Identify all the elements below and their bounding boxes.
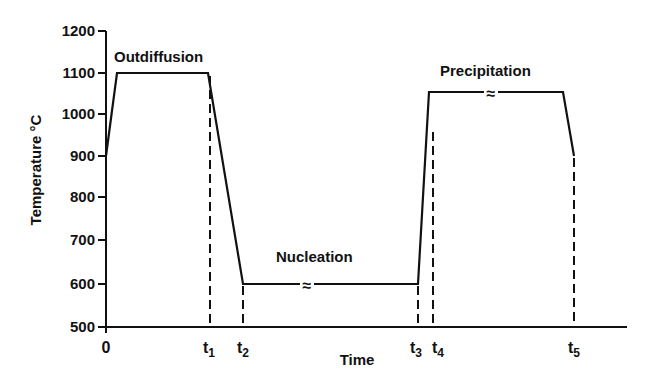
y-axis [98, 31, 106, 333]
label-precipitation: Precipitation [440, 62, 531, 79]
y-tick-1000: 1000 [62, 105, 95, 122]
y-axis-title: Temperature °C [27, 114, 44, 225]
y-tick-900: 900 [70, 147, 95, 164]
x-tick-t3: t3 [410, 339, 422, 360]
y-tick-800: 800 [70, 188, 95, 205]
label-nucleation: Nucleation [276, 248, 353, 265]
label-outdiffusion: Outdiffusion [114, 48, 203, 65]
y-tick-1200: 1200 [62, 22, 95, 39]
y-tick-600: 600 [70, 275, 95, 292]
x-tick-t4: t4 [432, 339, 444, 360]
y-tick-labels: 1200 1100 1000 900 800 700 600 500 [62, 22, 95, 335]
x-axis-title: Time [340, 351, 375, 368]
y-tick-1100: 1100 [62, 64, 95, 81]
y-tick-700: 700 [70, 231, 95, 248]
axis-break-icon-nucleation: ≈ [303, 277, 312, 294]
axis-break-icon-precipitation: ≈ [487, 85, 496, 102]
stage-boundary-lines [210, 76, 574, 327]
temperature-time-chart: 1200 1100 1000 900 800 700 600 500 Tempe… [0, 0, 649, 379]
x-tick-t5: t5 [568, 339, 580, 360]
x-tick-0: 0 [102, 339, 111, 356]
y-tick-500: 500 [70, 318, 95, 335]
x-tick-t1: t1 [203, 339, 215, 360]
x-tick-t2: t2 [237, 339, 249, 360]
